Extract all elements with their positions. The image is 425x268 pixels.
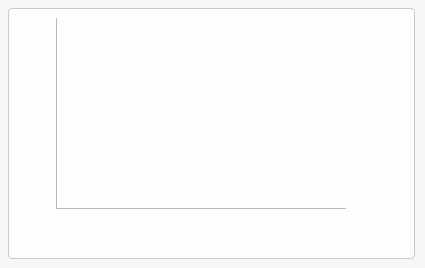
- stacked-area-svg: [57, 18, 345, 208]
- x-axis-tick-labels: [57, 211, 347, 247]
- x-axis-line: [56, 208, 346, 209]
- chart-legend: [352, 0, 422, 268]
- plot-area: [57, 18, 345, 208]
- y-axis-title-wrapper: [22, 40, 36, 190]
- screenshot-root: [0, 0, 425, 268]
